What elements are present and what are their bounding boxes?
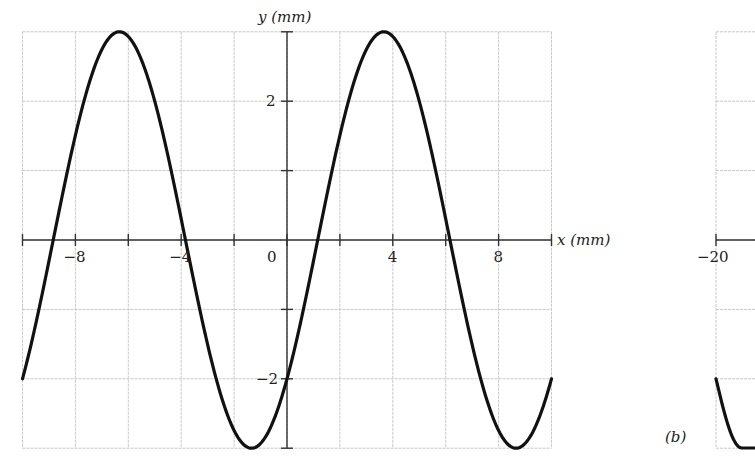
x-axis-label: x (mm) — [557, 233, 610, 248]
x-tick-label: −8 — [63, 250, 85, 265]
y-tick-label: −2 — [256, 372, 278, 387]
y-tick-label: 2 — [266, 94, 276, 109]
x-tick-label: 4 — [388, 250, 398, 265]
x-tick-label: 8 — [494, 250, 504, 265]
x-tick-label: −4 — [169, 250, 191, 265]
axes-panel-b — [716, 234, 755, 246]
axes-panel-a — [23, 32, 552, 448]
curve-panel-b — [716, 379, 755, 448]
y-axis-label: y (mm) — [258, 10, 311, 25]
x-tick-label-panel-b: −20 — [697, 250, 729, 265]
chart-canvas — [0, 0, 755, 456]
panel-b-label: (b) — [665, 430, 686, 445]
x-tick-label: 0 — [267, 250, 277, 265]
